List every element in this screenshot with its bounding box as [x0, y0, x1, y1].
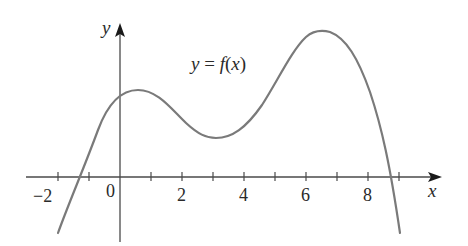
tick-label-8: 8: [363, 185, 372, 205]
eq-equals: =: [199, 53, 219, 74]
eq-y: y: [189, 53, 200, 74]
y-axis-label: y: [100, 17, 111, 38]
eq-close-paren: ): [240, 53, 246, 75]
function-graph: −2 0 2 4 6 8 x y y = f(x): [0, 0, 468, 246]
tick-label-neg2: −2: [33, 186, 52, 206]
tick-label-4: 4: [239, 185, 248, 205]
x-axis-label: x: [427, 180, 437, 201]
tick-label-6: 6: [301, 185, 310, 205]
equation-label: y = f(x): [189, 53, 246, 75]
origin-label: 0: [106, 181, 115, 201]
tick-label-2: 2: [177, 185, 186, 205]
